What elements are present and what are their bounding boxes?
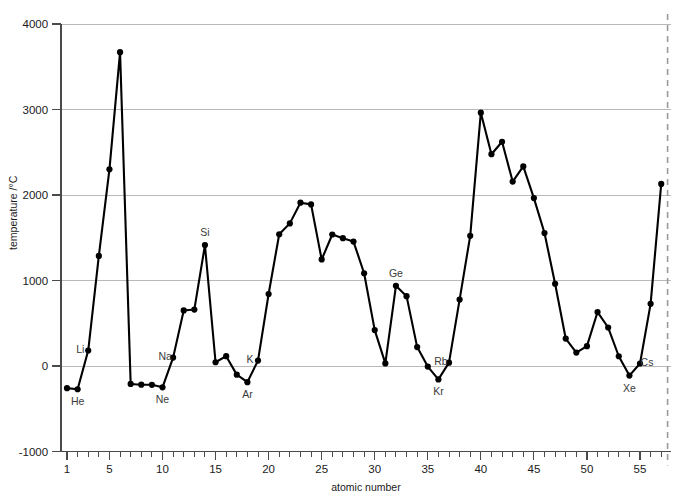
y-tick-label-0: 0 [42,360,48,372]
data-point-z51 [594,309,600,315]
data-point-z31 [382,360,388,366]
y-tick-labels: 40003000200010000-1000 [19,18,48,458]
data-point-z34 [414,344,420,350]
data-point-z30 [372,327,378,333]
point-label-Kr: Kr [433,385,444,397]
point-label-Cs: Cs [641,356,654,368]
tick-marks [52,24,661,460]
data-point-z7 [128,381,134,387]
data-point-z13 [191,306,197,312]
data-point-z48 [563,335,569,341]
data-point-z45 [531,195,537,201]
data-point-z19 [255,358,261,364]
data-point-z15 [212,359,218,365]
data-point-z29 [361,270,367,276]
data-point-z17 [234,372,240,378]
data-point-z50 [584,343,590,349]
data-point-z38 [457,296,463,302]
data-point-z53 [616,353,622,359]
y-tick-label-2000: 2000 [23,189,49,201]
data-point-z10 [159,384,165,390]
data-point-z57 [658,181,664,187]
data-point-z47 [552,281,558,287]
x-tick-label-55: 55 [634,463,647,475]
gridlines [61,24,671,366]
point-label-Ge: Ge [389,267,403,279]
data-point-z26 [329,231,335,237]
x-tick-label-15: 15 [209,463,222,475]
data-point-z44 [520,163,526,169]
x-tick-label-1: 1 [64,463,70,475]
point-label-Rb: Rb [434,355,448,367]
melting-point-chart: 40003000200010000-1000151015202530354045… [0,0,687,502]
point-label-Ar: Ar [242,388,253,400]
data-point-z1 [64,385,70,391]
x-tick-label-25: 25 [315,463,328,475]
data-point-z52 [605,324,611,330]
x-tick-label-10: 10 [156,463,169,475]
data-point-z41 [488,151,494,157]
point-label-Na: Na [158,350,172,362]
y-tick-label--1000: -1000 [19,446,48,458]
point-label-Si: Si [200,226,209,238]
data-point-z40 [478,110,484,116]
data-point-z14 [202,242,208,248]
data-point-z12 [181,307,187,313]
y-tick-label-3000: 3000 [23,104,49,116]
data-point-z5 [106,166,112,172]
data-point-z42 [499,139,505,145]
data-point-z28 [350,239,356,245]
data-point-z6 [117,49,123,55]
data-point-z22 [287,220,293,226]
y-axis-title: temperature /°C [7,175,19,250]
data-point-z20 [266,291,272,297]
melting-point-line [67,52,661,389]
data-point-z9 [149,382,155,388]
data-point-z35 [425,364,431,370]
x-tick-label-20: 20 [262,463,275,475]
point-labels: HeLiNeNaSiArKGeKrRbXeCs [71,226,654,407]
data-point-z25 [319,256,325,262]
data-point-z16 [223,353,229,359]
point-label-Xe: Xe [623,382,636,394]
data-point-z54 [626,372,632,378]
point-label-Ne: Ne [156,393,170,405]
y-tick-label-1000: 1000 [23,275,49,287]
x-tick-labels: 1510152025303540455055 [64,463,647,475]
y-tick-label-4000: 4000 [23,18,49,30]
data-point-z46 [541,230,547,236]
data-point-z36 [435,376,441,382]
axis-titles: atomic numbertemperature /°C [7,175,401,492]
data-point-z3 [85,347,91,353]
x-tick-label-35: 35 [421,463,434,475]
x-axis-title: atomic number [331,481,401,493]
data-point-z39 [467,233,473,239]
x-tick-label-50: 50 [581,463,594,475]
data-point-z2 [75,386,81,392]
data-point-z56 [648,301,654,307]
data-point-z8 [138,382,144,388]
data-point-z21 [276,231,282,237]
chart-plot-area: 40003000200010000-1000151015202530354045… [0,0,687,502]
data-point-z23 [297,200,303,206]
data-point-z18 [244,379,250,385]
x-tick-label-30: 30 [368,463,381,475]
point-label-Li: Li [76,343,84,355]
data-series [67,52,661,389]
point-label-He: He [71,395,85,407]
x-tick-label-5: 5 [106,463,112,475]
data-points [64,49,664,392]
x-tick-label-40: 40 [474,463,487,475]
data-point-z32 [393,283,399,289]
data-point-z49 [573,349,579,355]
data-point-z4 [96,253,102,259]
data-point-z24 [308,201,314,207]
data-point-z27 [340,235,346,241]
x-tick-label-45: 45 [527,463,540,475]
point-label-K: K [246,353,253,365]
data-point-z43 [510,178,516,184]
data-point-z33 [403,293,409,299]
